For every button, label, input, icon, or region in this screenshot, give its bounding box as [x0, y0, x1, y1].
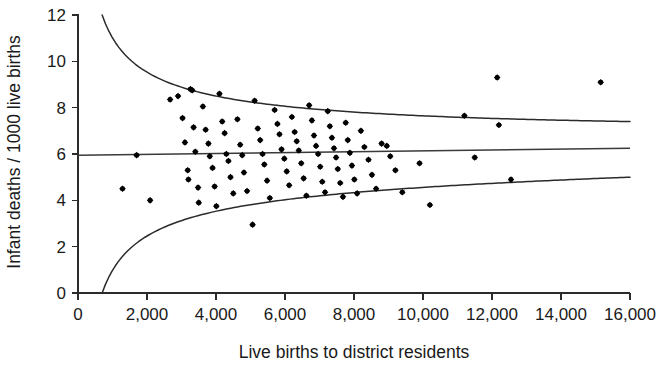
data-point	[254, 125, 261, 132]
data-point	[267, 195, 274, 202]
data-point	[361, 144, 368, 151]
data-point-core	[316, 152, 320, 156]
data-point-core	[348, 151, 352, 155]
data-point-core	[186, 177, 190, 181]
data-point-core	[299, 161, 303, 165]
data-point	[286, 182, 293, 189]
data-point	[241, 169, 248, 176]
data-point-core	[314, 144, 318, 148]
data-point-core	[400, 190, 404, 194]
data-point	[190, 124, 197, 131]
data-point-core	[497, 123, 501, 127]
data-point-core	[350, 164, 354, 168]
x-tick-label: 8,000	[333, 305, 376, 324]
x-tick-label: 10,000	[397, 305, 449, 324]
funnel-plot-figure: 02,0004,0006,0008,00010,00012,00014,0001…	[0, 0, 664, 366]
data-point	[271, 107, 278, 114]
data-point-core	[217, 92, 221, 96]
data-point	[597, 79, 604, 86]
data-point	[334, 166, 341, 173]
data-point-core	[224, 152, 228, 156]
data-point-core	[220, 120, 224, 124]
data-point	[119, 185, 126, 192]
data-point-core	[366, 158, 370, 162]
y-tick-labels: 024681012	[47, 6, 66, 303]
data-point-core	[509, 177, 513, 181]
data-point-core	[120, 187, 124, 191]
data-point	[264, 177, 271, 184]
data-point	[259, 151, 266, 158]
data-point-core	[293, 130, 297, 134]
data-point	[227, 174, 234, 181]
x-tick-label: 2,000	[126, 305, 169, 324]
data-point-core	[186, 168, 190, 172]
data-point	[369, 172, 376, 179]
data-point	[298, 160, 305, 167]
plot-canvas: 02,0004,0006,0008,00010,00012,00014,0001…	[0, 0, 664, 366]
data-point	[283, 168, 290, 175]
data-point-core	[196, 186, 200, 190]
data-point-core	[235, 117, 239, 121]
data-point	[329, 134, 336, 141]
data-point-core	[332, 146, 336, 150]
data-point	[392, 167, 399, 174]
centre-line-line	[78, 148, 630, 155]
data-point-core	[214, 204, 218, 208]
data-point-core	[326, 109, 330, 113]
data-point-core	[352, 177, 356, 181]
data-point	[300, 175, 307, 182]
data-point	[225, 158, 232, 165]
data-point-core	[334, 155, 338, 159]
data-point	[342, 119, 349, 126]
data-point	[219, 118, 226, 125]
lower-limit-curve	[102, 177, 630, 293]
data-point	[387, 153, 394, 160]
data-point-core	[304, 194, 308, 198]
x-axis-title: Live births to district residents	[239, 342, 470, 362]
data-point-core	[148, 198, 152, 202]
x-tick-label: 14,000	[535, 305, 587, 324]
data-point-core	[495, 76, 499, 80]
data-point	[317, 163, 324, 170]
data-point	[211, 183, 218, 190]
data-point-core	[330, 136, 334, 140]
data-point-core	[282, 157, 286, 161]
data-point-core	[287, 183, 291, 187]
data-point	[427, 202, 434, 209]
data-point-core	[208, 154, 212, 158]
data-point-core	[258, 138, 262, 142]
data-point	[133, 152, 140, 159]
data-point-core	[190, 88, 194, 92]
data-point-core	[135, 153, 139, 157]
data-point	[195, 184, 202, 191]
data-point	[311, 132, 318, 139]
data-point	[167, 96, 174, 103]
data-point-core	[277, 132, 281, 136]
data-point-core	[336, 167, 340, 171]
data-point-core	[323, 190, 327, 194]
data-point-core	[295, 139, 299, 143]
data-point-core	[346, 138, 350, 142]
data-point-core	[380, 142, 384, 146]
x-tick-labels: 02,0004,0006,0008,00010,00012,00014,0001…	[73, 305, 656, 324]
data-point-core	[262, 162, 266, 166]
centre-line	[78, 148, 630, 155]
data-point-core	[168, 98, 172, 102]
data-point-core	[297, 148, 301, 152]
data-point	[471, 154, 478, 161]
data-point-core	[213, 184, 217, 188]
data-point-core	[193, 150, 197, 154]
x-tick-label: 12,000	[466, 305, 518, 324]
y-tick-label: 4	[57, 191, 66, 210]
data-point	[494, 74, 501, 81]
data-point	[306, 102, 313, 109]
data-point	[175, 93, 182, 100]
y-axis-title: Infant deaths / 1000 live births	[4, 35, 24, 269]
data-point-core	[355, 191, 359, 195]
data-point-core	[273, 108, 277, 112]
data-point-core	[231, 191, 235, 195]
data-point-core	[183, 140, 187, 144]
data-point	[276, 131, 283, 138]
data-point-core	[192, 125, 196, 129]
data-point	[496, 122, 503, 129]
